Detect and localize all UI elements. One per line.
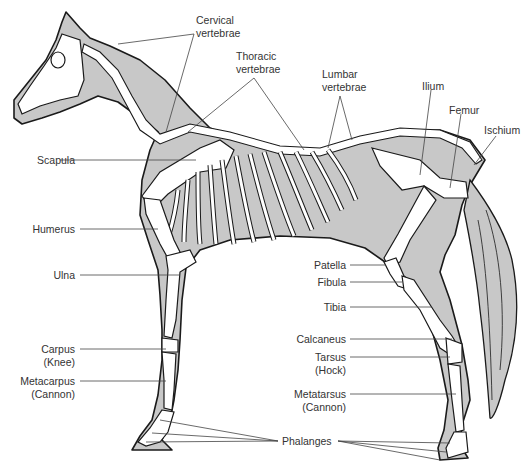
- tail: [464, 180, 517, 418]
- label-calcaneus: Calcaneus: [260, 333, 346, 346]
- label-tarsus-hock: Tarsus (Hock): [260, 351, 346, 376]
- label-ulna: Ulna: [0, 269, 75, 282]
- label-tibia: Tibia: [260, 301, 346, 314]
- label-humerus: Humerus: [0, 223, 75, 236]
- label-thoracic-vertebrae: Thoracic vertebrae: [236, 50, 280, 75]
- label-lumbar-vertebrae: Lumbar vertebrae: [322, 68, 366, 93]
- label-metatarsus-cannon: Metatarsus (Cannon): [260, 388, 346, 413]
- label-ilium: Ilium: [422, 80, 444, 93]
- label-cervical-vertebrae: Cervical vertebrae: [196, 14, 240, 39]
- label-fibula: Fibula: [260, 276, 346, 289]
- label-patella: Patella: [260, 259, 346, 272]
- label-phalanges: Phalanges: [282, 435, 332, 448]
- label-scapula: Scapula: [0, 154, 75, 167]
- label-carpus-knee: Carpus (Knee): [0, 343, 75, 368]
- label-ischium: Ischium: [484, 124, 520, 137]
- horse-body-silhouette: [14, 12, 485, 460]
- label-metacarpus-cannon: Metacarpus (Cannon): [0, 375, 75, 400]
- label-femur: Femur: [449, 104, 479, 117]
